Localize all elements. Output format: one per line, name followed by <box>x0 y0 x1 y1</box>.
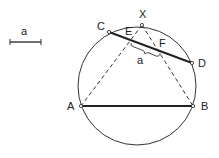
geometry-diagram: a X C D A B E F a <box>0 0 219 158</box>
segment-xa <box>81 25 142 106</box>
segment-cd <box>109 32 192 63</box>
label-f: F <box>159 37 166 49</box>
circle <box>78 27 196 145</box>
label-b: B <box>201 100 208 112</box>
label-c: C <box>97 20 105 32</box>
label-a: A <box>67 100 75 112</box>
point-c <box>107 30 110 33</box>
brace-label: a <box>137 54 144 66</box>
label-d: D <box>198 57 206 69</box>
point-a <box>79 104 82 107</box>
label-e: E <box>125 25 132 37</box>
scale-bar-label: a <box>21 25 28 37</box>
scale-bar: a <box>10 25 41 45</box>
label-x: X <box>139 8 147 20</box>
point-b <box>191 104 194 107</box>
segment-xb <box>142 25 193 106</box>
point-d <box>190 61 193 64</box>
point-x <box>140 23 143 26</box>
